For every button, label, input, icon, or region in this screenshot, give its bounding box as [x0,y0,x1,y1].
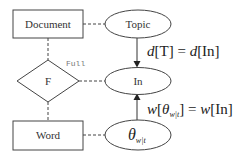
eq-bottom-equals: = [184,101,200,117]
relation-label-full: Full [66,59,85,68]
node-document: Document [13,10,83,38]
in-label: In [133,75,143,87]
eq-top-equals: = [174,43,190,59]
topic-label: Topic [126,18,151,30]
eq-bottom-rhs-var: w [200,101,210,117]
theta-symbol: θ [128,126,136,143]
eq-bottom-rhs-arg: [In] [210,101,233,117]
word-label: Word [36,129,61,141]
arrowhead-down-icon [134,61,141,68]
er-diagram: Document Topic F Full In Word θw|t d[T] … [0,0,239,160]
eq-bottom-lhs-var: w [147,101,157,117]
eq-top-rhs-arg: [In] [197,43,220,59]
eq-top-lhs-arg: [T] [155,43,174,59]
node-in: In [105,68,171,95]
node-theta: θw|t [105,120,171,150]
equation-topic-in: d[T] = d[In] [147,43,220,59]
f-label: F [45,75,51,87]
node-word: Word [13,121,83,150]
theta-ellipse [105,120,171,150]
document-label: Document [25,18,71,30]
equation-theta-in: w[θw|t] = w[In] [147,101,233,119]
theta-subscript: w|t [136,136,147,145]
node-topic: Topic [105,10,171,38]
